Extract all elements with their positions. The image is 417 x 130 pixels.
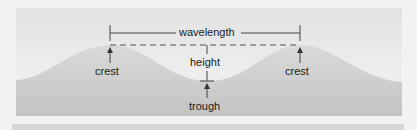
wavelength-label: wavelength (179, 27, 235, 38)
page: wavelength crest crest height trough (0, 0, 417, 130)
height-label: height (190, 57, 220, 68)
wave-diagram-panel: wavelength crest crest height trough (16, 8, 402, 116)
bottom-strip (12, 124, 404, 130)
trough-label: trough (189, 101, 220, 112)
crest-left-label: crest (95, 66, 119, 77)
crest-right-label: crest (285, 66, 309, 77)
